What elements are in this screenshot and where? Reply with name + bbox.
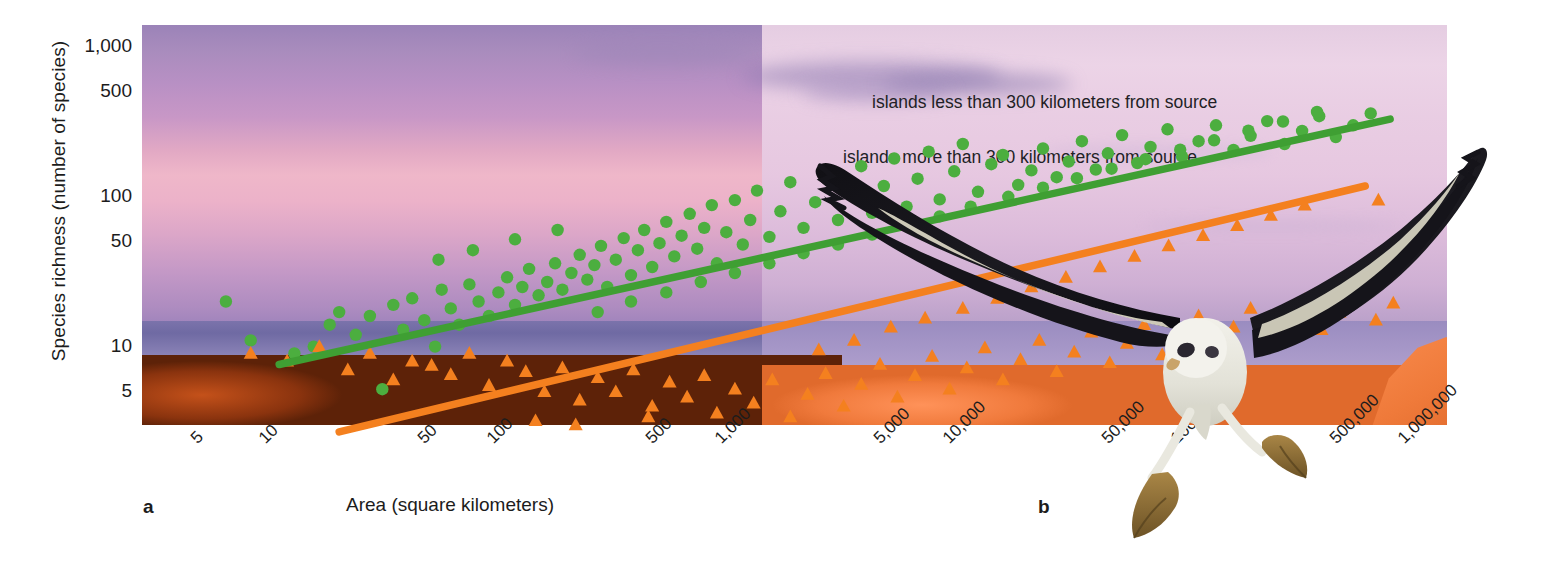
data-point	[1210, 119, 1222, 131]
data-point	[1127, 249, 1141, 262]
data-point	[684, 208, 696, 220]
data-point	[706, 199, 718, 211]
data-point	[556, 284, 568, 296]
data-point	[774, 205, 786, 217]
data-point	[1192, 135, 1204, 147]
data-point	[324, 319, 336, 331]
data-point	[997, 149, 1009, 161]
data-point	[728, 382, 742, 395]
data-point	[341, 363, 355, 376]
data-point	[1012, 179, 1024, 191]
data-point	[1261, 115, 1273, 127]
data-point	[663, 375, 677, 388]
data-point	[364, 310, 376, 322]
data-point	[996, 373, 1010, 386]
data-point	[565, 267, 577, 279]
data-point	[985, 158, 997, 170]
data-point	[888, 152, 900, 164]
data-point	[482, 378, 496, 391]
data-point	[467, 244, 479, 256]
data-point	[695, 276, 707, 288]
data-point	[737, 238, 749, 250]
data-point	[1244, 301, 1258, 314]
data-point	[1076, 135, 1088, 147]
data-point	[660, 216, 672, 228]
data-point	[763, 231, 775, 243]
data-point	[574, 249, 586, 261]
data-point	[837, 399, 851, 412]
data-point	[418, 314, 430, 326]
data-point	[1051, 171, 1063, 183]
data-point	[516, 281, 528, 293]
data-point	[1365, 107, 1377, 119]
data-point	[1090, 163, 1102, 175]
data-point	[523, 263, 535, 275]
data-point	[463, 278, 475, 290]
data-point	[710, 406, 724, 419]
data-point	[569, 418, 583, 431]
data-point	[884, 320, 898, 333]
data-point	[675, 230, 687, 242]
data-point	[784, 176, 796, 188]
data-point	[1059, 270, 1073, 283]
data-point	[855, 160, 867, 172]
data-point	[244, 346, 258, 359]
data-point	[1063, 155, 1075, 167]
data-point	[911, 173, 923, 185]
data-point	[646, 261, 658, 273]
data-point	[819, 366, 833, 379]
data-point	[387, 299, 399, 311]
data-point	[1037, 142, 1049, 154]
data-point	[890, 390, 904, 403]
data-point	[878, 180, 890, 192]
data-point	[444, 367, 458, 380]
data-point	[509, 233, 521, 245]
data-point	[680, 390, 694, 403]
data-point	[492, 286, 504, 298]
data-point	[429, 340, 441, 352]
data-point	[751, 184, 763, 196]
data-point	[691, 243, 703, 255]
data-point	[918, 311, 932, 324]
data-point	[765, 373, 779, 386]
data-point	[618, 232, 630, 244]
data-point	[923, 146, 935, 158]
data-point	[698, 222, 710, 234]
data-point	[519, 364, 533, 377]
data-point	[436, 284, 448, 296]
data-point	[854, 377, 868, 390]
data-point	[1162, 239, 1176, 252]
data-point	[609, 384, 623, 397]
data-point	[978, 341, 992, 354]
data-point	[220, 295, 232, 307]
data-point	[1105, 163, 1117, 175]
albatross-illustration	[816, 148, 1487, 538]
data-point	[934, 193, 946, 205]
data-point	[610, 254, 622, 266]
data-point	[350, 329, 362, 341]
data-point	[625, 269, 637, 281]
data-point	[472, 295, 484, 307]
data-point	[1196, 228, 1210, 241]
data-point	[625, 295, 637, 307]
data-point	[812, 343, 826, 356]
data-point	[1103, 355, 1117, 368]
data-point	[801, 387, 815, 400]
data-point	[729, 194, 741, 206]
data-point	[1102, 147, 1114, 159]
data-point	[425, 358, 439, 371]
data-point	[1050, 364, 1064, 377]
data-point	[832, 214, 844, 226]
data-point	[668, 250, 680, 262]
data-point	[1208, 134, 1220, 146]
data-point	[847, 333, 861, 346]
data-point	[532, 289, 544, 301]
data-point	[445, 302, 457, 314]
species-area-figure: 1,00050010050105 Species richness (numbe…	[0, 0, 1545, 569]
data-point	[797, 222, 809, 234]
data-point	[957, 138, 969, 150]
data-point	[501, 271, 513, 283]
data-point	[333, 306, 345, 318]
data-point	[638, 224, 650, 236]
data-point	[1014, 352, 1028, 365]
